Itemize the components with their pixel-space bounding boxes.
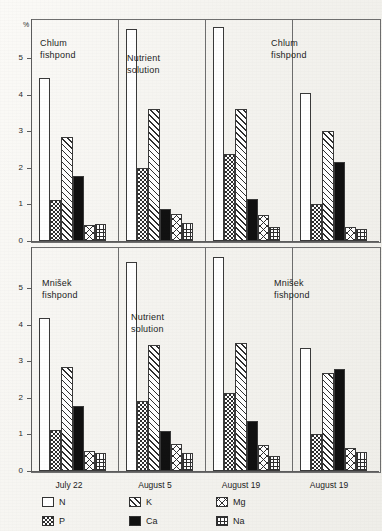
bar-p-group3: [311, 204, 322, 241]
y-tick-label-4: 4: [11, 91, 23, 99]
bar-na-group2: [269, 456, 280, 471]
bar-mg-group2: [258, 445, 269, 471]
bar-na-group2: [269, 227, 280, 241]
legend-item-p: P: [42, 516, 65, 526]
bar-k-group3: [322, 131, 333, 241]
y-axis-unit-top: %: [23, 21, 29, 28]
bar-chart-figure: % 012345 012345 Chlum fishpond Nutrient …: [0, 0, 382, 531]
legend-swatch-na-icon: [216, 516, 228, 526]
legend-swatch-n-icon: [42, 497, 54, 507]
legend-label-mg: Mg: [233, 497, 246, 507]
bar-mg-group0: [84, 225, 95, 241]
legend-label-n: N: [59, 497, 66, 507]
bar-p-group0: [50, 430, 61, 471]
legend-item-k: K: [129, 497, 152, 507]
annotation-top-chlum-2: Chlum fishpond: [271, 37, 307, 61]
x-axis-label-0: July 22: [33, 480, 105, 490]
legend-swatch-mg-icon: [216, 497, 228, 507]
bar-na-group3: [356, 229, 367, 241]
legend-item-ca: Ca: [129, 516, 158, 526]
bar-p-group0: [50, 200, 61, 241]
group-separator: [205, 19, 206, 241]
bar-na-group3: [356, 452, 367, 471]
bar-n-group1: [126, 262, 137, 471]
bar-k-group0: [61, 367, 72, 471]
bar-ca-group1: [160, 209, 171, 241]
bar-p-group1: [137, 168, 148, 241]
bar-mg-group1: [171, 214, 182, 241]
bar-k-group0: [61, 137, 72, 241]
bar-p-group1: [137, 401, 148, 471]
x-axis-label-3: August 19: [291, 480, 367, 490]
bar-n-group2: [213, 257, 224, 471]
bar-mg-group1: [171, 444, 182, 471]
y-tick-label-0: 0: [11, 467, 23, 475]
y-tick-label-2: 2: [11, 164, 23, 172]
bar-ca-group3: [334, 369, 345, 471]
bar-k-group1: [148, 109, 159, 241]
y-tick-label-1: 1: [11, 200, 23, 208]
legend-label-na: Na: [233, 516, 245, 526]
bar-k-group1: [148, 345, 159, 471]
y-tick-label-1: 1: [11, 430, 23, 438]
bar-p-group3: [311, 434, 322, 471]
annotation-bottom-nutrient: Nutrient solution: [131, 311, 164, 335]
bar-n-group0: [39, 78, 50, 241]
legend-item-na: Na: [216, 516, 245, 526]
bar-mg-group0: [84, 451, 95, 471]
bar-k-group2: [235, 343, 246, 471]
annotation-bottom-mnisek-1: Mnišek fishpond: [42, 277, 78, 301]
bar-n-group2: [213, 27, 224, 241]
annotation-top-nutrient: Nutrient solution: [127, 52, 160, 76]
x-axis-baseline: [31, 471, 379, 472]
y-tick-label-5: 5: [11, 284, 23, 292]
annotation-top-chlum-1: Chlum fishpond: [40, 37, 76, 61]
y-tick-label-4: 4: [11, 321, 23, 329]
bar-mg-group3: [345, 448, 356, 471]
bar-n-group3: [300, 93, 311, 241]
y-tick-label-3: 3: [11, 127, 23, 135]
group-separator: [205, 247, 206, 471]
bar-ca-group1: [160, 431, 171, 471]
bar-k-group3: [322, 373, 333, 471]
legend-label-k: K: [146, 497, 152, 507]
bar-na-group1: [182, 223, 193, 241]
legend-label-ca: Ca: [146, 516, 158, 526]
x-axis-baseline: [31, 241, 379, 242]
bar-p-group2: [224, 154, 235, 241]
legend-label-p: P: [59, 516, 65, 526]
x-axis-label-1: August 5: [119, 480, 191, 490]
bar-k-group2: [235, 109, 246, 241]
legend-swatch-ca-icon: [129, 516, 141, 526]
bar-mg-group3: [345, 227, 356, 241]
bar-ca-group0: [73, 406, 84, 471]
y-tick-label-3: 3: [11, 357, 23, 365]
legend-item-mg: Mg: [216, 497, 246, 507]
x-axis-label-2: August 19: [205, 480, 277, 490]
legend-swatch-p-icon: [42, 516, 54, 526]
y-axis-spine: [31, 19, 32, 242]
bar-na-group0: [95, 453, 106, 471]
bar-ca-group2: [247, 199, 258, 241]
group-separator: [118, 19, 119, 241]
group-separator: [118, 247, 119, 471]
bar-mg-group2: [258, 215, 269, 241]
legend-item-n: N: [42, 497, 66, 507]
annotation-bottom-mnisek-2: Mnišek fishpond: [274, 277, 310, 301]
bar-p-group2: [224, 393, 235, 471]
bar-ca-group0: [73, 176, 84, 241]
bar-na-group0: [95, 224, 106, 241]
bar-n-group3: [300, 348, 311, 471]
bar-ca-group3: [334, 162, 345, 241]
y-axis-spine: [31, 247, 32, 472]
bar-na-group1: [182, 453, 193, 471]
y-tick-label-2: 2: [11, 394, 23, 402]
y-tick-label-5: 5: [11, 54, 23, 62]
bar-n-group0: [39, 318, 50, 471]
legend-swatch-k-icon: [129, 497, 141, 507]
y-tick-label-0: 0: [11, 237, 23, 245]
bar-ca-group2: [247, 421, 258, 471]
